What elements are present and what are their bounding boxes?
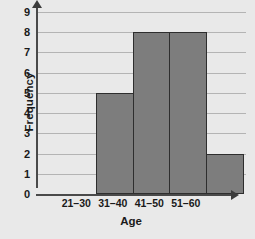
x-tick-label: 41–50 bbox=[131, 197, 168, 209]
y-axis-line bbox=[36, 6, 38, 188]
y-tick-label: 6 bbox=[8, 68, 30, 79]
y-tick-label: 4 bbox=[8, 108, 30, 119]
bar bbox=[206, 154, 244, 194]
x-axis-line bbox=[36, 194, 232, 196]
plot-area bbox=[38, 12, 246, 194]
y-tick-label: 1 bbox=[8, 169, 30, 180]
y-axis-arrow-icon bbox=[32, 0, 42, 8]
x-tick-label: 31–40 bbox=[95, 197, 132, 209]
bar bbox=[169, 32, 207, 194]
x-axis-title: Age bbox=[58, 215, 204, 227]
x-axis-tick-labels: 21–3031–4041–5051–60 bbox=[58, 197, 204, 209]
bar bbox=[133, 32, 171, 194]
x-tick-label: 21–30 bbox=[58, 197, 95, 209]
y-tick-label: 9 bbox=[8, 7, 30, 18]
x-axis-arrow-icon bbox=[231, 190, 239, 200]
y-tick-label: 7 bbox=[8, 47, 30, 58]
x-tick-label: 51–60 bbox=[168, 197, 205, 209]
y-tick-label: 2 bbox=[8, 149, 30, 160]
y-tick-label: 5 bbox=[8, 88, 30, 99]
y-tick-label: 8 bbox=[8, 27, 30, 38]
bar-series bbox=[96, 12, 242, 194]
bar bbox=[96, 93, 134, 194]
y-tick-label: 0 bbox=[8, 189, 30, 200]
y-tick-label: 3 bbox=[8, 128, 30, 139]
histogram-figure: Frequency 21–3031–4041–5051–60 Age 01234… bbox=[0, 0, 255, 239]
